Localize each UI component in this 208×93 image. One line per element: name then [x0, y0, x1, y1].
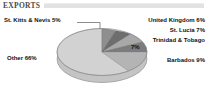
- pie-label-st-kitts-nevis: St. Kitts & Nevis 5%: [4, 17, 61, 24]
- figure-title: EXPORTS: [3, 1, 40, 10]
- figure-header: EXPORTS: [0, 0, 208, 12]
- pie-chart-svg: [56, 24, 148, 86]
- pie-label-trinidad-tobago-percent: 7%: [131, 44, 205, 51]
- pie-label-trinidad-tobago-name: Trinidad & Tobago: [153, 37, 205, 43]
- pie-label-st-lucia: St. Lucia 7%: [170, 27, 205, 34]
- header-divider-rule: [44, 3, 204, 8]
- pie-label-other: Other 66%: [7, 55, 37, 62]
- exports-pie-chart-figure: EXPORTS: [0, 0, 208, 93]
- pie-label-barbados: Barbados 9%: [167, 57, 205, 64]
- pie-chart: [56, 24, 148, 86]
- pie-label-united-kingdom: United Kingdom 6%: [148, 17, 205, 24]
- pie-label-trinidad-tobago: Trinidad & Tobago 7%: [131, 37, 205, 51]
